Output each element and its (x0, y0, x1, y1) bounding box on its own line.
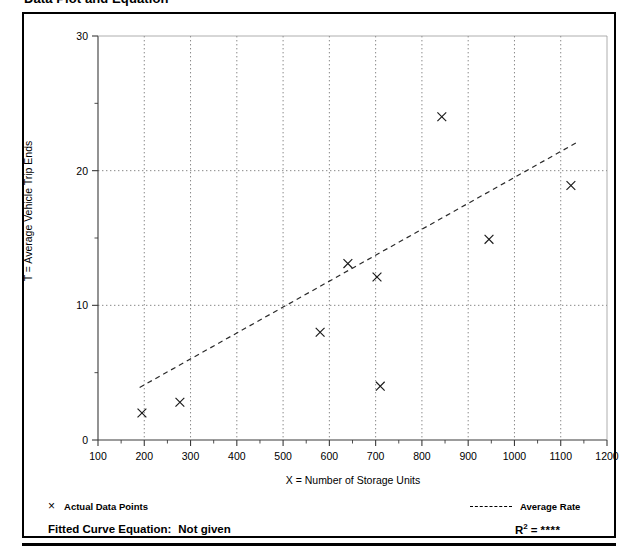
fitted-curve-equation-label: Fitted Curve Equation: (48, 523, 171, 535)
chart-panel (22, 12, 616, 538)
r-squared-equals: = (531, 524, 538, 536)
legend-average-rate: Average Rate (470, 497, 580, 515)
panel-bottom-rule (22, 543, 616, 546)
r-squared-exponent: 2 (523, 522, 527, 531)
r-squared-label: R2 (515, 522, 528, 536)
y-axis-title: T = Average Vehicle Trip Ends (22, 121, 34, 301)
fitted-curve-equation-value: Not given (178, 523, 230, 535)
legend-average-rate-label: Average Rate (520, 501, 580, 512)
cross-marker-icon: × (48, 500, 55, 512)
legend-actual-data-points-label: Actual Data Points (64, 501, 148, 512)
page-title: Data Plot and Equation (24, 0, 168, 6)
r-squared-value: **** (540, 524, 560, 536)
x-axis-title: X = Number of Storage Units (98, 474, 608, 486)
r-squared: R2 = **** (515, 522, 560, 540)
fitted-curve-equation: Fitted Curve Equation: Not given (48, 523, 231, 541)
dashed-line-icon (470, 506, 512, 507)
legend-actual-data-points: × Actual Data Points (48, 497, 148, 515)
